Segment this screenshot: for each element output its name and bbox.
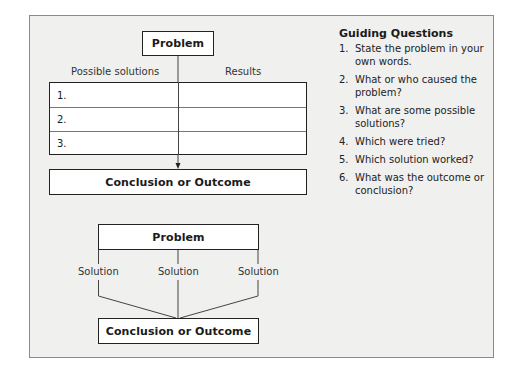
problem-label: Problem bbox=[152, 37, 204, 50]
results-header: Results bbox=[225, 66, 261, 77]
table-divider bbox=[178, 82, 179, 155]
list-item: 6.What was the outcome or conclusion? bbox=[339, 171, 489, 197]
solution-label-3: Solution bbox=[238, 266, 279, 277]
guiding-questions-title: Guiding Questions bbox=[339, 27, 453, 40]
conclusion-label-2: Conclusion or Outcome bbox=[106, 325, 251, 338]
problem-box-2: Problem bbox=[98, 224, 259, 250]
problem-label-2: Problem bbox=[152, 231, 204, 244]
list-item: 1.State the problem in your own words. bbox=[339, 42, 489, 68]
list-item: 3.What are some possible solutions? bbox=[339, 104, 489, 130]
conclusion-box-2: Conclusion or Outcome bbox=[98, 318, 259, 344]
list-item: 4.Which were tried? bbox=[339, 135, 489, 148]
problem-box: Problem bbox=[142, 31, 214, 56]
list-item: 5.Which solution worked? bbox=[339, 153, 489, 166]
conclusion-box: Conclusion or Outcome bbox=[49, 169, 307, 195]
possible-solutions-header: Possible solutions bbox=[71, 66, 159, 77]
solution-label-1: Solution bbox=[78, 266, 119, 277]
list-item: 2.What or who caused the problem? bbox=[339, 73, 489, 99]
guiding-questions-list: 1.State the problem in your own words. 2… bbox=[339, 42, 489, 202]
solution-label-2: Solution bbox=[158, 266, 199, 277]
conclusion-label: Conclusion or Outcome bbox=[105, 176, 250, 189]
